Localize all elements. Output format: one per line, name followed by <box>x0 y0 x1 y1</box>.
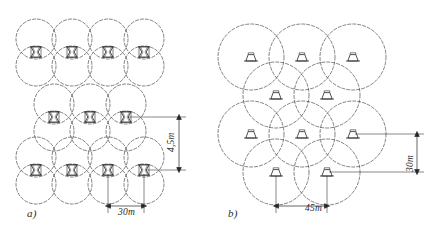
panel-a-dim-vertical-label: 4,5m <box>166 132 176 152</box>
panel-a-caption: a) <box>27 207 37 219</box>
panel-b-dim-vertical-label: 30m <box>405 155 415 172</box>
luminaire-layout-figure <box>0 0 430 235</box>
panel-b-dim-horizontal-label: 45m <box>305 203 322 213</box>
figure-background <box>0 0 430 235</box>
panel-b-caption: b) <box>228 207 238 219</box>
panel-a-dim-horizontal-label: 30m <box>118 207 135 217</box>
